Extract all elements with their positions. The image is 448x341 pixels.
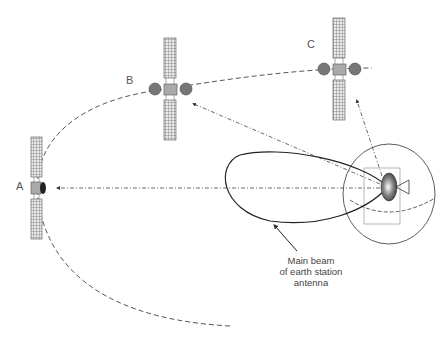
- annotation-line-3: antenna: [294, 277, 329, 288]
- satellite-body: [333, 64, 346, 75]
- satellite-c: [318, 18, 361, 120]
- main-beam-lobe: [225, 152, 388, 223]
- annotation-line-2: of earth station: [280, 266, 343, 277]
- satellite-body: [31, 182, 41, 194]
- solar-panel: [333, 80, 345, 120]
- satellite-label-c: C: [307, 38, 315, 50]
- solar-panel: [164, 38, 176, 78]
- satellite-dish: [149, 83, 161, 95]
- solar-panel: [333, 18, 345, 58]
- solar-panel: [31, 199, 42, 239]
- satellite-dish: [40, 182, 46, 194]
- satellite-label-a: A: [16, 180, 24, 192]
- solar-panel: [31, 137, 42, 177]
- antenna-dish-icon: [381, 173, 409, 201]
- satellite-dish: [180, 83, 192, 95]
- annotation-line-1: Main beam: [288, 255, 335, 266]
- satellite-body: [164, 84, 177, 95]
- annotation-arrow: [275, 226, 297, 251]
- earth-equator: [350, 198, 435, 212]
- satellite-label-b: B: [126, 74, 133, 86]
- satellite-dish: [349, 63, 361, 75]
- solar-panel: [164, 100, 176, 140]
- diagram-canvas: A B C Main beam of earth station antenna: [0, 0, 448, 341]
- pointing-line-b: [194, 104, 380, 184]
- satellite-b: [149, 38, 192, 140]
- pointing-line-c: [357, 101, 382, 176]
- satellite-dish: [318, 63, 330, 75]
